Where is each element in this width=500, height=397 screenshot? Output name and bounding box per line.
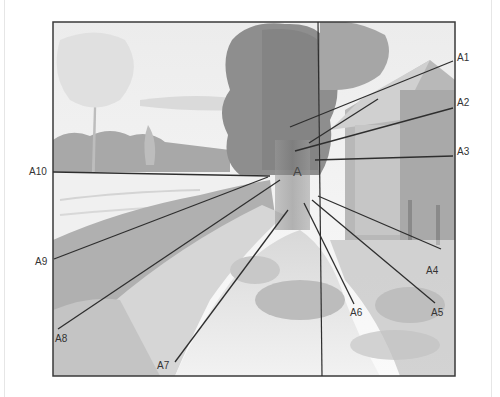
label-a10: A10: [29, 167, 47, 177]
label-a5: A5: [431, 308, 443, 318]
label-a3: A3: [457, 147, 469, 157]
label-a4: A4: [426, 266, 438, 276]
center-point-label: A: [293, 165, 302, 178]
label-a7: A7: [157, 361, 169, 371]
label-a9: A9: [35, 257, 47, 267]
label-a6: A6: [350, 308, 362, 318]
landscape-drawing: [0, 0, 500, 397]
label-a8: A8: [55, 334, 67, 344]
drawing-content: [53, 21, 455, 376]
label-a2: A2: [457, 98, 469, 108]
label-a1: A1: [457, 53, 469, 63]
